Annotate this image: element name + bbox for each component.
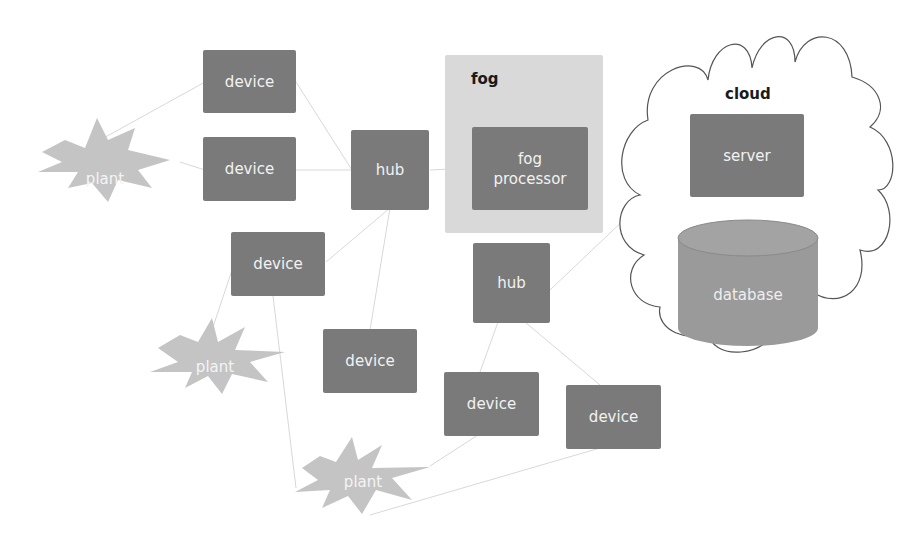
fog-processor-node[interactable]: fog processor <box>472 127 588 210</box>
hub-node-2-label: hub <box>497 273 526 293</box>
edge-hub2-device5 <box>480 322 498 372</box>
edge-device3-plant3 <box>273 296 296 488</box>
device-node-1[interactable]: device <box>203 50 296 113</box>
edge-device3-plant2 <box>212 270 232 330</box>
device-node-4-label: device <box>345 351 394 371</box>
device-node-3-label: device <box>253 254 302 274</box>
plant-1-label: plant <box>70 170 140 188</box>
fog-processor-label: fog processor <box>482 149 578 189</box>
fog-region-label: fog <box>471 70 499 88</box>
device-node-6-label: device <box>589 407 638 427</box>
database-label: database <box>678 286 818 304</box>
edge-device4-hub1 <box>370 208 390 330</box>
cloud-region-label: cloud <box>725 85 771 103</box>
plant-2-shape <box>150 318 285 394</box>
database-cylinder <box>678 220 818 346</box>
edge-device5-plant3 <box>430 435 478 466</box>
device-node-4[interactable]: device <box>323 329 417 393</box>
edge-plant1-device2 <box>180 162 205 170</box>
plant-1-shape <box>38 118 170 202</box>
device-node-1-label: device <box>225 72 274 92</box>
plant-3-label: plant <box>328 473 398 491</box>
server-node[interactable]: server <box>690 114 804 197</box>
diagram-canvas <box>0 0 914 548</box>
device-node-2-label: device <box>225 159 274 179</box>
edge-plant1-device1 <box>100 82 205 140</box>
hub-node-2[interactable]: hub <box>473 243 550 323</box>
hub-node-1[interactable]: hub <box>351 130 429 210</box>
device-node-6[interactable]: device <box>566 385 661 449</box>
device-node-5[interactable]: device <box>444 372 539 436</box>
device-node-2[interactable]: device <box>203 137 296 201</box>
device-node-3[interactable]: device <box>231 232 325 296</box>
device-node-5-label: device <box>467 394 516 414</box>
plant-2-label: plant <box>180 358 250 376</box>
server-node-label: server <box>723 146 770 166</box>
edge-device1-hub1 <box>296 82 352 170</box>
edge-device3-hub1 <box>326 208 390 262</box>
edge-device6-plant3 <box>370 448 600 515</box>
hub-node-1-label: hub <box>376 160 405 180</box>
